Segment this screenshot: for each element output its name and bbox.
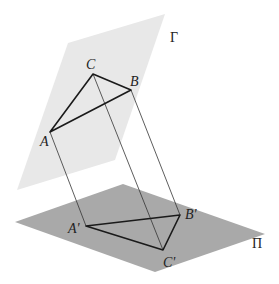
plane-pi [15, 184, 265, 272]
plane-gamma-label: Γ [170, 30, 178, 45]
point-label: C' [163, 255, 176, 270]
point-label: B' [185, 207, 198, 222]
plane-pi-label: Π [252, 236, 262, 251]
plane-gamma [17, 14, 165, 190]
point-label: A' [67, 221, 81, 236]
point-label: B [130, 74, 139, 89]
point-label: A [39, 134, 49, 149]
point-label: C [86, 57, 96, 72]
projection-diagram: Γ Π ABCA'B'C' [0, 0, 279, 284]
